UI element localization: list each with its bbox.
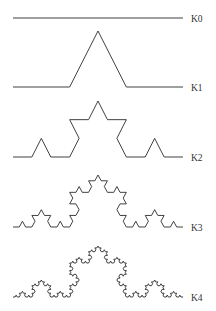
curve-k3: K3 [13, 175, 203, 233]
koch-curve-k4-path [13, 246, 183, 297]
label-k2: K2 [191, 153, 203, 163]
koch-curve-diagram: K0 K1 K2 K3 K4 [0, 0, 216, 311]
curve-k2: K2 [13, 101, 203, 163]
koch-curve-k1-path [13, 31, 183, 87]
curve-k4: K4 [13, 246, 203, 303]
koch-curve-k3-path [13, 175, 183, 227]
label-k4: K4 [191, 293, 203, 303]
label-k3: K3 [191, 223, 203, 233]
label-k0: K0 [191, 14, 203, 24]
curve-k0: K0 [13, 14, 203, 24]
curve-k1: K1 [13, 31, 203, 93]
label-k1: K1 [191, 83, 203, 93]
koch-curve-k2-path [13, 101, 183, 157]
